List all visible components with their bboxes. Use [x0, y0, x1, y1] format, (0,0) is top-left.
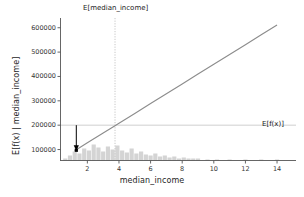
x-axis-title: median_income: [0, 176, 304, 185]
partial-dependence-chart: median_income E[f(x) | median_income] 10…: [0, 0, 304, 197]
histogram-bar: [153, 154, 157, 161]
y-tick-label: 100000: [14, 146, 56, 154]
histogram-bar: [149, 156, 153, 161]
annotation-arrow: [74, 125, 79, 152]
histogram-bar: [101, 152, 105, 161]
y-tick-label: 500000: [14, 48, 56, 56]
histogram-bar: [73, 152, 77, 161]
histogram-bar: [139, 152, 143, 161]
histogram-bar: [163, 156, 167, 161]
histogram-bar: [96, 148, 100, 161]
histogram-bar: [92, 145, 96, 161]
histogram-bar: [77, 154, 81, 161]
histogram-bar: [68, 156, 72, 161]
expected-feature-annotation: E[median_income]: [83, 4, 148, 12]
x-tick-label: 6: [139, 165, 163, 173]
x-tick-label: 14: [265, 165, 289, 173]
histogram-bar: [130, 149, 134, 161]
y-tick-label: 300000: [14, 97, 56, 105]
y-tick-label: 600000: [14, 24, 56, 32]
expected-prediction-annotation: E[f(x)]: [262, 120, 284, 128]
y-axis-title: E[f(x) | median_income]: [12, 57, 21, 155]
x-tick-label: 8: [170, 165, 194, 173]
histogram-bar: [134, 154, 138, 161]
histogram-bar: [120, 151, 124, 161]
histogram-bar: [172, 157, 176, 161]
histogram-bar: [115, 146, 119, 161]
y-tick-label: 200000: [14, 121, 56, 129]
histogram-bar: [82, 149, 86, 161]
arrow-endpoint-marker: [75, 149, 78, 152]
feature-histogram: [63, 145, 279, 161]
histogram-bar: [125, 153, 129, 161]
partial-dependence-line: [75, 25, 277, 151]
histogram-bar: [158, 157, 162, 161]
y-tick-label: 400000: [14, 72, 56, 80]
x-tick-label: 12: [233, 165, 257, 173]
x-tick-label: 4: [107, 165, 131, 173]
histogram-bar: [106, 147, 110, 161]
histogram-bar: [111, 150, 115, 161]
x-tick-label: 2: [75, 165, 99, 173]
histogram-bar: [87, 151, 91, 161]
x-tick-label: 10: [202, 165, 226, 173]
histogram-bar: [144, 155, 148, 161]
